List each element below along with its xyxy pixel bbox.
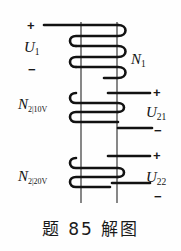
secondary2-voltage-symbol: U: [146, 169, 157, 185]
primary-voltage-subscript: 1: [35, 47, 40, 57]
transformer-diagram: + U1 − N1 N2|10V + U21 − N2|20V + U22 −: [0, 0, 181, 212]
secondary1-voltage-subscript: 21: [157, 112, 167, 122]
secondary2-plus-sign: +: [153, 149, 161, 162]
secondary1-minus-sign: −: [154, 124, 162, 137]
secondary2-turns-label: N2|20V: [18, 169, 47, 184]
primary-turns-symbol: N: [131, 51, 141, 67]
primary-minus-sign: −: [28, 63, 36, 76]
figure-page: + U1 − N1 N2|10V + U21 − N2|20V + U22 − …: [0, 0, 181, 251]
secondary1-turns-subscript: 2|10V: [28, 105, 47, 114]
figure-caption: 题 85 解图: [0, 215, 181, 240]
secondary1-turns-label: N2|10V: [18, 97, 47, 112]
secondary1-voltage-symbol: U: [146, 104, 157, 120]
secondary1-plus-sign: +: [153, 86, 161, 99]
primary-voltage-label: U1: [24, 40, 40, 55]
secondary1-turns-symbol: N: [18, 96, 28, 112]
winding-wires: [44, 25, 152, 187]
primary-voltage-symbol: U: [24, 39, 35, 55]
primary-turns-label: N1: [131, 52, 146, 67]
secondary1-voltage-label: U21: [146, 105, 166, 120]
secondary2-turns-subscript: 2|20V: [28, 177, 47, 186]
secondary2-turns-symbol: N: [18, 168, 28, 184]
secondary2-voltage-subscript: 22: [157, 177, 167, 187]
primary-turns-subscript: 1: [141, 59, 146, 69]
primary-plus-sign: +: [27, 19, 35, 32]
secondary2-minus-sign: −: [154, 190, 162, 203]
secondary2-voltage-label: U22: [146, 170, 166, 185]
